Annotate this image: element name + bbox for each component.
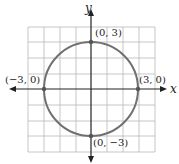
point-top [89, 40, 93, 44]
y-axis-label: y [84, 1, 92, 15]
x-axis-arrow-right [160, 86, 167, 92]
circle-graph: y x (0, 3) (3, 0) (0, −3) (−3, 0) [0, 0, 179, 164]
label-top: (0, 3) [95, 27, 122, 38]
label-bottom: (0, −3) [93, 137, 128, 148]
x-axis-arrow-left [9, 86, 16, 92]
point-left [42, 87, 46, 91]
label-right: (3, 0) [139, 74, 166, 85]
x-axis-label: x [170, 82, 177, 96]
point-right [136, 87, 140, 91]
y-axis-arrow-down [88, 156, 94, 163]
label-left: (−3, 0) [5, 74, 40, 85]
axes [12, 12, 164, 160]
